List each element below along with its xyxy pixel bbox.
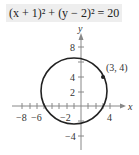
x-axis-label: x: [127, 101, 133, 112]
y-tick-label: 4: [70, 72, 75, 83]
point-label: (3, 4): [106, 62, 128, 74]
y-tick-label: 2: [70, 87, 75, 98]
point-marker: [101, 75, 105, 79]
y-tick-label: 8: [70, 42, 75, 53]
x-tick-label: −2: [60, 112, 71, 123]
x-tick-label: −6: [31, 112, 42, 123]
circle-graph: x y −8 −6 −2 4 8 4 2 −4 (3, 4): [0, 0, 139, 155]
x-axis: [12, 103, 126, 109]
x-tick-label: 4: [107, 112, 112, 123]
y-axis: [78, 33, 84, 150]
x-tick-label: −8: [16, 112, 27, 123]
y-axis-label: y: [77, 23, 83, 34]
y-tick-label: −4: [65, 131, 76, 142]
